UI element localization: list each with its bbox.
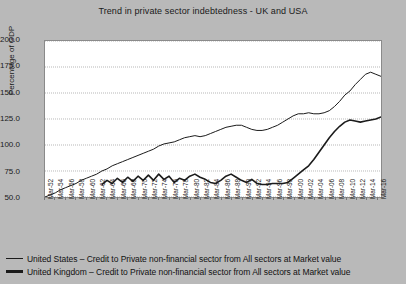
x-tick-label: Mar-10 [349, 179, 356, 199]
x-tick-label: Mar-62 [99, 179, 106, 199]
x-tick-label: Mar-78 [182, 179, 189, 199]
x-tick-mark [179, 197, 180, 200]
x-tick-mark [356, 197, 357, 200]
x-tick-label: Mar-08 [338, 179, 345, 199]
x-tick-mark [158, 197, 159, 200]
x-tick-label: Mar-56 [68, 179, 75, 199]
x-tick-mark [210, 197, 211, 200]
y-tick-label: 100.0 [0, 140, 20, 149]
x-axis-tick-labels: Mar-52Mar-54Mar-56Mar-58Mar-60Mar-62Mar-… [44, 199, 382, 239]
x-tick-mark [366, 197, 367, 200]
x-tick-mark [262, 197, 263, 200]
x-tick-label: Mar-60 [89, 179, 96, 199]
x-tick-label: Mar-76 [172, 179, 179, 199]
x-tick-mark [65, 197, 66, 200]
x-tick-label: Mar-06 [328, 179, 335, 199]
x-tick-label: Mar-86 [224, 179, 231, 199]
x-tick-label: Mar-00 [297, 179, 304, 199]
x-tick-label: Mar-92 [255, 179, 262, 199]
x-tick-mark [44, 197, 45, 200]
legend-item-united-kingdom: United Kingdom – Credit to Private non-f… [6, 265, 402, 278]
y-tick-label: 150.0 [0, 88, 20, 97]
x-tick-mark [304, 197, 305, 200]
y-tick-label: 75.0 [0, 167, 20, 176]
x-tick-mark [377, 197, 378, 200]
x-tick-mark [54, 197, 55, 200]
x-tick-label: Mar-14 [369, 179, 376, 199]
x-tick-mark [117, 197, 118, 200]
x-tick-label: Mar-96 [276, 179, 283, 199]
x-tick-label: Mar-68 [130, 179, 137, 199]
x-tick-label: Mar-94 [265, 179, 272, 199]
x-tick-mark [346, 197, 347, 200]
x-tick-mark [127, 197, 128, 200]
x-tick-label: Mar-54 [57, 179, 64, 199]
x-tick-label: Mar-72 [151, 179, 158, 199]
x-tick-label: Mar-74 [161, 179, 168, 199]
x-tick-mark [294, 197, 295, 200]
x-tick-label: Mar-88 [234, 179, 241, 199]
x-tick-mark [148, 197, 149, 200]
x-tick-mark [190, 197, 191, 200]
x-tick-label: Mar-16 [380, 179, 387, 199]
x-tick-mark [86, 197, 87, 200]
legend-label-united-kingdom: United Kingdom – Credit to Private non-f… [27, 267, 350, 277]
series-line-united-kingdom [102, 46, 381, 184]
y-tick-label: 200.0 [0, 35, 20, 44]
x-tick-label: Mar-04 [317, 179, 324, 199]
legend-label-united-states: United States – Credit to Private non-fi… [27, 254, 341, 264]
x-tick-label: Mar-02 [307, 179, 314, 199]
x-tick-mark [335, 197, 336, 200]
x-tick-mark [75, 197, 76, 200]
x-tick-label: Mar-52 [47, 179, 54, 199]
legend-swatch-united-states-icon [6, 258, 23, 260]
series-lines [45, 41, 381, 197]
x-tick-label: Mar-66 [120, 179, 127, 199]
x-tick-mark [325, 197, 326, 200]
x-tick-mark [283, 197, 284, 200]
y-tick-label: 50.0 [0, 193, 20, 202]
x-tick-mark [96, 197, 97, 200]
x-tick-label: Mar-98 [286, 179, 293, 199]
x-tick-mark [200, 197, 201, 200]
x-tick-mark [106, 197, 107, 200]
x-tick-mark [242, 197, 243, 200]
x-tick-label: Mar-64 [109, 179, 116, 199]
x-tick-mark [138, 197, 139, 200]
x-tick-mark [314, 197, 315, 200]
x-tick-mark [221, 197, 222, 200]
x-tick-label: Mar-90 [245, 179, 252, 199]
x-tick-mark [273, 197, 274, 200]
y-tick-label: 125.0 [0, 114, 20, 123]
x-tick-label: Mar-80 [193, 179, 200, 199]
x-tick-mark [231, 197, 232, 200]
x-tick-label: Mar-84 [213, 179, 220, 199]
legend-item-united-states: United States – Credit to Private non-fi… [6, 252, 402, 265]
x-tick-label: Mar-70 [141, 179, 148, 199]
chart-figure: Trend in private sector indebtedness - U… [0, 0, 406, 284]
x-tick-mark [169, 197, 170, 200]
y-tick-label: 175.0 [0, 61, 20, 70]
x-tick-mark [252, 197, 253, 200]
legend-swatch-united-kingdom-icon [6, 270, 23, 273]
x-tick-label: Mar-12 [359, 179, 366, 199]
x-tick-label: Mar-58 [78, 179, 85, 199]
x-tick-label: Mar-82 [203, 179, 210, 199]
plot-area [44, 40, 382, 198]
chart-legend: United States – Credit to Private non-fi… [6, 252, 402, 278]
